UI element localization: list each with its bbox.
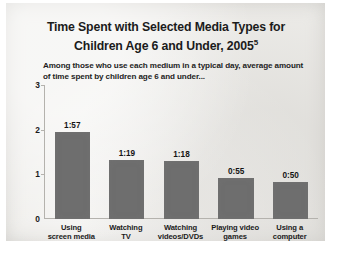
bar[interactable]: [109, 160, 144, 219]
y-tick-label: 0: [35, 214, 40, 224]
y-tick-label: 1: [35, 169, 40, 179]
bar[interactable]: [164, 161, 199, 219]
chart-title-line2: Children Age 6 and Under, 2005: [74, 39, 254, 53]
chart-panel: Time Spent with Selected Media Types for…: [6, 3, 325, 241]
plot-area: 0123 1:571:191:180:550:50 Usingscreen me…: [44, 85, 318, 219]
bar-slot: 1:19: [109, 85, 144, 219]
x-axis-category-label: Usingscreen media: [42, 223, 101, 241]
x-axis-category-label: Using acomputer: [260, 223, 319, 241]
bar-slot: 1:18: [164, 85, 199, 219]
category-label-line: Using a: [276, 223, 303, 232]
category-label-line: screen media: [48, 232, 95, 241]
y-tick-mark: [41, 85, 44, 86]
chart-subtitle: Among those who use each medium in a typ…: [43, 61, 311, 82]
chart-title-line1: Time Spent with Selected Media Types for: [47, 20, 285, 34]
y-tick-mark: [41, 174, 44, 175]
footnote-marker: 5: [254, 38, 258, 47]
y-tick-label: 2: [35, 125, 40, 135]
bar-value-label: 0:50: [273, 171, 308, 180]
y-tick-mark: [41, 130, 44, 131]
x-axis-category-label: Watchingvideos/DVDs: [151, 223, 210, 241]
bar-slot: 1:57: [55, 85, 90, 219]
chart-title: Time Spent with Selected Media Types for…: [20, 20, 312, 54]
bar-slot: 0:55: [218, 85, 253, 219]
bar-slot: 0:50: [273, 85, 308, 219]
x-axis-category-label: Playing videogames: [206, 223, 265, 241]
slide-canvas: Time Spent with Selected Media Types for…: [0, 0, 337, 253]
bar-value-label: 1:57: [55, 121, 90, 130]
category-label-line: Playing video: [211, 223, 259, 232]
y-tick-label: 3: [35, 80, 40, 90]
bar[interactable]: [273, 182, 308, 219]
category-label-line: Using: [61, 223, 82, 232]
category-label-line: Watching: [164, 223, 197, 232]
bar[interactable]: [55, 132, 90, 219]
category-label-line: computer: [273, 232, 307, 241]
bar-value-label: 1:19: [109, 149, 144, 158]
bar[interactable]: [218, 178, 253, 219]
category-label-line: videos/DVDs: [158, 232, 203, 241]
x-axis-category-label: WatchingTV: [97, 223, 156, 241]
bar-group: 1:571:191:180:550:50: [45, 85, 318, 219]
bar-value-label: 1:18: [164, 150, 199, 159]
category-label-line: games: [223, 232, 247, 241]
category-label-line: Watching: [109, 223, 142, 232]
bar-value-label: 0:55: [218, 167, 253, 176]
category-label-line: TV: [121, 232, 131, 241]
